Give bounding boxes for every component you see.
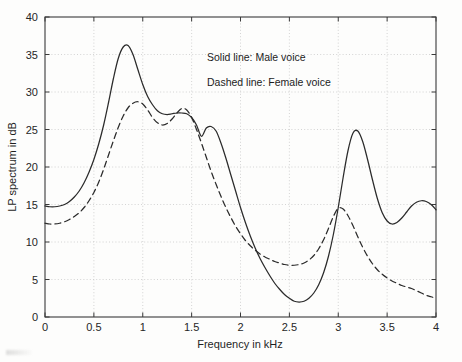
y-tick-label: 25 — [26, 124, 38, 136]
y-axis-title: LP spectrum in dB — [6, 122, 18, 212]
x-tick-label: 1 — [140, 321, 146, 333]
x-tick-label: 2.5 — [282, 321, 297, 333]
scan-artifact — [6, 350, 32, 355]
y-tick-label: 15 — [26, 199, 38, 211]
x-axis-title: Frequency in kHz — [197, 338, 283, 350]
x-tick-label: 2 — [237, 321, 243, 333]
legend-dashed-entry: Dashed line: Female voice — [207, 76, 331, 88]
y-tick-label: 10 — [26, 236, 38, 248]
y-tick-label: 0 — [32, 311, 38, 323]
figure-container: 00.511.522.533.540510152025303540 Freque… — [0, 0, 462, 362]
y-tick-label: 40 — [26, 11, 38, 23]
legend-solid-entry: Solid line: Male voice — [207, 51, 306, 63]
y-tick-label: 35 — [26, 49, 38, 61]
x-tick-label: 0.5 — [86, 321, 101, 333]
y-tick-label: 30 — [26, 86, 38, 98]
y-tick-label: 20 — [26, 161, 38, 173]
y-tick-label: 5 — [32, 274, 38, 286]
x-tick-label: 3 — [335, 321, 341, 333]
x-tick-label: 0 — [42, 321, 48, 333]
x-tick-label: 1.5 — [184, 321, 199, 333]
x-tick-label: 4 — [433, 321, 439, 333]
x-tick-label: 3.5 — [379, 321, 394, 333]
lp-spectrum-chart: 00.511.522.533.540510152025303540 Freque… — [0, 0, 462, 362]
